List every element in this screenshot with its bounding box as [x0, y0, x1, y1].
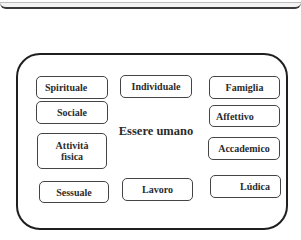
- node-label: Sociale: [57, 107, 87, 118]
- node-affettivo: Affettivo: [209, 105, 280, 127]
- node-famiglia: Famiglia: [209, 76, 280, 99]
- node-accademico: Accademico: [208, 137, 280, 160]
- node-label: Sessuale: [56, 187, 92, 198]
- node-sessuale: Sessuale: [39, 181, 109, 203]
- center-label-essere-umano: Essere umano: [118, 124, 194, 140]
- node-label: Famiglia: [226, 82, 264, 93]
- node-ludica: Lúdica: [210, 175, 281, 198]
- node-label: Spirituale: [45, 82, 87, 93]
- node-label-line1: Attività: [56, 140, 89, 151]
- node-sociale: Sociale: [36, 101, 108, 124]
- node-attivita-fisica: Attività fìsica: [37, 133, 107, 169]
- node-label: Attività fìsica: [56, 140, 89, 162]
- node-label: Individuale: [132, 81, 181, 92]
- node-label-line2: fìsica: [56, 151, 89, 162]
- node-label: Affettivo: [216, 111, 254, 122]
- node-label: Accademico: [218, 143, 270, 154]
- node-label: Lúdica: [240, 181, 270, 192]
- top-divider-bar: [0, 2, 301, 9]
- node-spirituale: Spirituale: [36, 76, 108, 99]
- node-label: Lavoro: [142, 184, 173, 195]
- node-individuale: Individuale: [120, 75, 192, 98]
- node-lavoro: Lavoro: [122, 178, 193, 201]
